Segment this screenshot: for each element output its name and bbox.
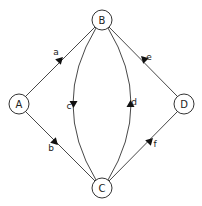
edge-label-e: e [146,52,152,62]
edge-f [109,112,177,181]
node-D: D [174,94,194,114]
edge-label-f: f [153,139,157,149]
edge-labels: a b c d e f [48,47,157,153]
node-B: B [92,10,112,30]
edge-label-b: b [48,143,54,153]
edges [26,27,177,181]
edge-label-d: d [131,97,137,107]
edge-b [26,112,95,181]
edge-label-a: a [53,47,59,57]
graph-canvas: a b c d e f A B C D [0,0,202,206]
edge-d [108,28,131,180]
edge-label-c: c [67,101,72,111]
node-label-A: A [16,99,23,110]
node-label-B: B [99,15,106,26]
node-label-C: C [99,183,106,194]
node-C: C [92,178,112,198]
node-A: A [9,94,29,114]
node-label-D: D [180,99,188,110]
edge-c [73,28,96,180]
